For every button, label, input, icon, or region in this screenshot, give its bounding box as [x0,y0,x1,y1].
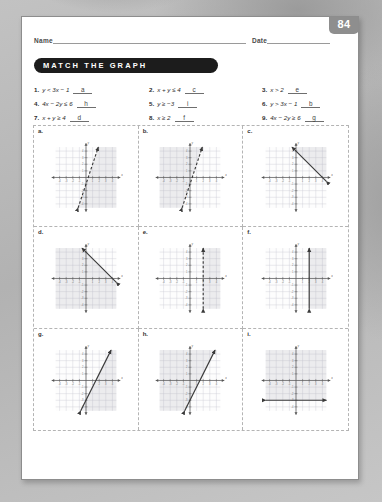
problem-equation: x ≥ 2 [157,114,170,121]
svg-text:x: x [330,173,333,177]
problem-equation: y > 3x − 1 [270,100,297,107]
svg-text:y: y [296,243,299,247]
problem-equation: 4x − 2y ≥ 6 [270,114,300,121]
problem-answer-blank[interactable]: c [185,86,204,95]
problem-answer-blank[interactable]: f [175,114,194,123]
coordinate-plane: xy-4-4-3-3-2-2-1-111223344 [49,141,123,215]
problem-item: 1.y < 3x − 1a [34,86,149,95]
problem-number: 6. [262,100,267,107]
problem-equation: y ≥ −3 [157,100,174,107]
problem-number: 8. [149,114,154,121]
graph-grid: a.xy-4-4-3-3-2-2-1-111223344b.xy-4-4-3-3… [33,125,349,431]
svg-text:y: y [86,243,89,247]
name-label: Name [34,37,53,44]
svg-text:y: y [296,344,299,348]
svg-text:y: y [191,243,194,247]
problem-answer-blank[interactable]: g [305,114,324,123]
problem-number: 9. [262,114,267,121]
svg-text:x: x [225,274,228,278]
problem-item: 4.4x − 2y ≤ 6h [34,100,149,109]
problem-answer-blank[interactable]: b [301,100,320,109]
graph-label: b. [143,128,148,134]
graph-cell[interactable]: b.xy-4-4-3-3-2-2-1-111223344 [139,126,244,227]
coordinate-plane: xy-4-4-3-3-2-2-1-111223344 [49,242,123,316]
problem-answer-blank[interactable]: i [178,100,197,109]
problem-item: 3.x > 2e [262,86,350,95]
date-input-line[interactable] [267,34,330,44]
graph-label: d. [38,229,43,235]
svg-text:y: y [191,344,194,348]
svg-text:y: y [296,141,299,145]
graph-label: f. [247,229,251,235]
svg-text:x: x [120,274,123,278]
problem-answer-blank[interactable]: d [70,114,89,123]
problem-answer-blank[interactable]: h [77,100,96,109]
problem-item: 8.x ≥ 2f [149,114,262,123]
graph-cell[interactable]: h.xy-4-4-3-3-2-2-1-111223344 [139,329,244,430]
coordinate-plane: xy-4-4-3-3-2-2-1-111223344 [259,242,333,316]
svg-text:x: x [330,376,333,380]
graph-cell[interactable]: e.xy-4-4-3-3-2-2-1-111223344 [139,227,244,328]
date-label: Date [252,37,267,44]
svg-text:y: y [191,141,194,145]
worksheet-header: NameDate [34,26,346,42]
coordinate-plane: xy-4-4-3-3-2-2-1-111223344 [153,344,227,418]
problem-item: 5.y ≥ −3i [149,100,262,109]
problem-list: 1.y < 3x − 1a2.x + y ≤ 4c3.x > 2e4.4x − … [34,83,350,125]
graph-label: c. [247,128,252,134]
problem-answer-blank[interactable]: a [73,86,92,95]
svg-text:x: x [225,376,228,380]
svg-text:x: x [225,173,228,177]
problem-equation: 4x − 2y ≤ 6 [42,100,72,107]
problem-answer-blank[interactable]: e [288,86,307,95]
graph-cell[interactable]: d.xy-4-4-3-3-2-2-1-111223344 [34,227,139,328]
coordinate-plane: xy-4-4-3-3-2-2-1-111223344 [153,242,227,316]
svg-text:y: y [86,344,89,348]
page-title: MATCH THE GRAPH [34,58,218,73]
svg-text:y: y [86,141,89,145]
problem-number: 5. [149,100,154,107]
problem-equation: y < 3x − 1 [42,86,69,93]
graph-label: i. [247,331,250,337]
graph-cell[interactable]: f.xy-4-4-3-3-2-2-1-111223344 [243,227,348,328]
problem-number: 2. [149,86,154,93]
problem-item: 6.y > 3x − 1b [262,100,350,109]
graph-cell[interactable]: i.xy-4-4-3-3-2-2-1-111223344 [243,329,348,430]
problem-number: 1. [34,86,39,93]
graph-label: h. [143,331,148,337]
svg-text:x: x [120,376,123,380]
problem-equation: x + y ≥ 4 [42,114,66,121]
svg-text:x: x [330,274,333,278]
problem-equation: x > 2 [270,86,284,93]
problem-equation: x + y ≤ 4 [157,86,181,93]
graph-cell[interactable]: g.xy-4-4-3-3-2-2-1-111223344 [34,329,139,430]
page-number-badge: 84 [329,16,359,34]
problem-number: 4. [34,100,39,107]
problem-number: 7. [34,114,39,121]
coordinate-plane: xy-4-4-3-3-2-2-1-111223344 [49,344,123,418]
name-input-line[interactable] [53,34,246,44]
graph-label: g. [38,331,43,337]
problem-number: 3. [262,86,267,93]
worksheet-page: NameDate 84 MATCH THE GRAPH 1.y < 3x − 1… [21,16,359,480]
graph-cell[interactable]: a.xy-4-4-3-3-2-2-1-111223344 [34,126,139,227]
problem-item: 2.x + y ≤ 4c [149,86,262,95]
graph-cell[interactable]: c.xy-4-4-3-3-2-2-1-111223344 [243,126,348,227]
coordinate-plane: xy-4-4-3-3-2-2-1-111223344 [259,141,333,215]
graph-label: a. [38,128,43,134]
coordinate-plane: xy-4-4-3-3-2-2-1-111223344 [259,344,333,418]
problem-item: 9.4x − 2y ≥ 6g [262,114,350,123]
coordinate-plane: xy-4-4-3-3-2-2-1-111223344 [153,141,227,215]
graph-label: e. [143,229,148,235]
problem-item: 7.x + y ≥ 4d [34,114,149,123]
svg-text:x: x [120,173,123,177]
